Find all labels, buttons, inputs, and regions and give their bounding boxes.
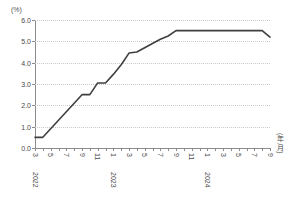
series-path <box>35 31 270 138</box>
x-axis-tick-mark <box>82 148 83 151</box>
x-axis-tick-mark <box>239 148 240 151</box>
y-axis-tick-label: 3.0 <box>21 81 31 88</box>
x-axis-tick-label: 7 <box>63 153 70 157</box>
x-axis-tick-mark <box>129 148 130 151</box>
x-axis-tick-label: 11 <box>188 153 195 160</box>
x-axis-tick-label: 1 <box>110 153 117 157</box>
x-axis-tick-mark <box>35 148 36 151</box>
x-axis-tick-label: 1 <box>204 153 211 157</box>
x-axis-tick-mark <box>200 148 201 151</box>
x-axis-tick-label: 7 <box>157 153 164 157</box>
x-axis-tick-label: 9 <box>267 153 274 157</box>
x-axis-tick-label: 3 <box>220 153 227 157</box>
x-axis-tick-label: 5 <box>141 153 148 157</box>
x-axis-tick-mark <box>98 148 99 151</box>
x-axis-tick-mark <box>270 148 271 151</box>
x-axis-tick-mark <box>254 148 255 151</box>
x-axis-tick-mark <box>223 148 224 151</box>
x-axis-tick-label: 11 <box>94 153 101 160</box>
y-axis-tick-label: 0.0 <box>21 145 31 152</box>
x-axis-tick-mark <box>153 148 154 151</box>
x-axis-tick-label: 5 <box>47 153 54 157</box>
y-axis-tick-label: 6.0 <box>21 17 31 24</box>
y-axis-unit-label: (%) <box>11 6 22 13</box>
x-axis-tick-mark <box>247 148 248 151</box>
x-axis-tick-label: 3 <box>126 153 133 157</box>
x-axis-tick-label: 5 <box>235 153 242 157</box>
x-axis-tick-mark <box>215 148 216 151</box>
x-axis-tick-mark <box>168 148 169 151</box>
y-axis-tick-label: 4.0 <box>21 59 31 66</box>
x-axis-tick-mark <box>90 148 91 151</box>
y-axis-tick-label: 1.0 <box>21 123 31 130</box>
x-axis-tick-mark <box>176 148 177 151</box>
x-axis-tick-label: 3 <box>32 153 39 157</box>
x-axis-year-label: 2024 <box>204 172 211 188</box>
x-axis-tick-mark <box>160 148 161 151</box>
x-axis-tick-mark <box>192 148 193 151</box>
x-axis-year-label: 2023 <box>110 172 117 188</box>
x-axis-tick-label: 9 <box>173 153 180 157</box>
y-axis-tick-label: 2.0 <box>21 102 31 109</box>
x-axis-tick-mark <box>59 148 60 151</box>
y-axis-tick-label: 5.0 <box>21 38 31 45</box>
x-axis-tick-label: 9 <box>79 153 86 157</box>
x-axis-tick-mark <box>66 148 67 151</box>
plot-area: 0.01.02.03.04.05.06.0 320225791112023357… <box>35 20 270 148</box>
line-chart: (%) 0.01.02.03.04.05.06.0 32022579111202… <box>0 0 296 197</box>
x-axis-caption: (年,月) <box>275 133 285 154</box>
x-axis-year-label: 2022 <box>32 172 39 188</box>
x-axis-tick-mark <box>43 148 44 151</box>
x-axis-tick-mark <box>262 148 263 151</box>
x-axis-tick-mark <box>121 148 122 151</box>
x-axis-tick-mark <box>145 148 146 151</box>
x-axis-tick-mark <box>231 148 232 151</box>
x-axis-tick-mark <box>106 148 107 151</box>
x-axis-tick-mark <box>113 148 114 151</box>
x-axis-tick-mark <box>51 148 52 151</box>
data-series-line <box>35 20 270 148</box>
x-axis-tick-mark <box>74 148 75 151</box>
x-axis-tick-mark <box>184 148 185 151</box>
x-axis-tick-mark <box>137 148 138 151</box>
x-axis-tick-mark <box>207 148 208 151</box>
x-axis-tick-label: 7 <box>251 153 258 157</box>
